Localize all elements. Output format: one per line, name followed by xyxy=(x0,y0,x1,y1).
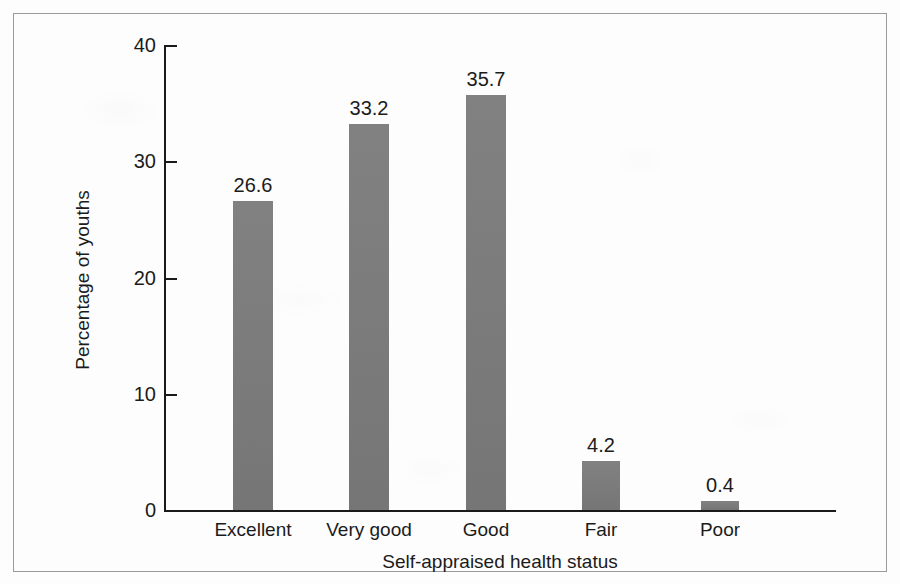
y-axis-title: Percentage of youths xyxy=(72,180,94,380)
category-label-poor: Poor xyxy=(645,519,795,541)
y-tick-mark-20 xyxy=(166,278,177,280)
bar-value-poor: 0.4 xyxy=(670,474,770,497)
bar-excellent[interactable] xyxy=(233,201,273,510)
figure-border: 40 30 20 10 0 26.6 Excellent 33.2 Very g… xyxy=(13,13,887,572)
y-tick-label-10: 10 xyxy=(96,383,156,406)
y-tick-mark-0 xyxy=(166,510,177,512)
figure-page: 40 30 20 10 0 26.6 Excellent 33.2 Very g… xyxy=(0,0,900,584)
y-tick-mark-10 xyxy=(166,394,177,396)
bar-very-good[interactable] xyxy=(349,124,389,510)
bar-value-very-good: 33.2 xyxy=(319,97,419,120)
y-tick-mark-30 xyxy=(166,161,177,163)
y-tick-label-30: 30 xyxy=(96,150,156,173)
bar-fair[interactable] xyxy=(582,461,620,510)
bar-value-good: 35.7 xyxy=(436,68,536,91)
bar-poor[interactable] xyxy=(701,501,739,510)
y-tick-label-20: 20 xyxy=(96,267,156,290)
x-axis-line xyxy=(164,510,836,512)
y-tick-mark-40 xyxy=(166,45,177,47)
bar-value-fair: 4.2 xyxy=(551,434,651,457)
y-tick-label-0: 0 xyxy=(96,499,156,522)
bar-value-excellent: 26.6 xyxy=(203,174,303,197)
x-axis-title: Self-appraised health status xyxy=(164,551,836,573)
y-tick-label-40: 40 xyxy=(96,34,156,57)
bar-good[interactable] xyxy=(466,95,506,510)
